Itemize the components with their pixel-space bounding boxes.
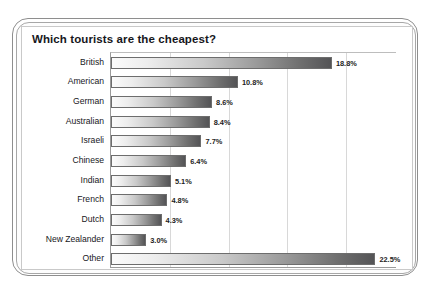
category-label: Australian <box>66 116 104 126</box>
bar-value-label: 4.3% <box>166 215 183 224</box>
bar-value-label: 5.1% <box>175 176 192 185</box>
bar <box>111 175 171 187</box>
bar-row: 6.4% <box>111 155 397 167</box>
bar-row: 7.7% <box>111 135 397 147</box>
category-label: British <box>80 57 104 67</box>
bar <box>111 96 212 108</box>
chart-title: Which tourists are the cheapest? <box>32 33 216 45</box>
category-label: Israeli <box>81 135 104 145</box>
chart-plot-wrapper: BritishAmericanGermanAustralianIsraeliCh… <box>22 52 413 268</box>
bar-value-label: 4.8% <box>171 196 188 205</box>
category-label: German <box>73 96 104 106</box>
plot-area: 18.8%10.8%8.6%8.4%7.7%6.4%5.1%4.8%4.3%3.… <box>110 52 396 268</box>
bar <box>111 234 146 246</box>
bar-value-label: 3.0% <box>150 235 167 244</box>
bar <box>111 214 162 226</box>
bar-row: 8.4% <box>111 116 397 128</box>
bar-value-label: 10.8% <box>242 78 263 87</box>
bar-row: 3.0% <box>111 234 397 246</box>
bar-row: 8.6% <box>111 96 397 108</box>
bar-value-label: 22.5% <box>379 255 400 264</box>
bar <box>111 135 201 147</box>
bar <box>111 76 238 88</box>
bar-value-label: 8.4% <box>214 117 231 126</box>
chart-card: Which tourists are the cheapest? British… <box>21 26 413 270</box>
category-label: American <box>68 76 104 86</box>
bar-value-label: 8.6% <box>216 98 233 107</box>
bar <box>111 155 186 167</box>
bar-value-label: 18.8% <box>336 58 357 67</box>
bar-value-label: 6.4% <box>190 157 207 166</box>
category-label: Chinese <box>72 155 104 165</box>
category-axis-labels: BritishAmericanGermanAustralianIsraeliCh… <box>22 52 108 268</box>
bar-row: 5.1% <box>111 175 397 187</box>
bar-row: 10.8% <box>111 76 397 88</box>
bar <box>111 57 332 69</box>
bar-value-label: 7.7% <box>205 137 222 146</box>
category-label: Other <box>83 253 105 263</box>
category-label: Dutch <box>82 214 104 224</box>
bar <box>111 194 167 206</box>
bar-row: 22.5% <box>111 253 397 265</box>
bar-row: 4.8% <box>111 194 397 206</box>
category-label: New Zealander <box>46 234 104 244</box>
bar-row: 4.3% <box>111 214 397 226</box>
bar <box>111 116 210 128</box>
category-label: Indian <box>81 175 104 185</box>
bar <box>111 253 375 265</box>
category-label: French <box>77 194 104 204</box>
bar-row: 18.8% <box>111 57 397 69</box>
